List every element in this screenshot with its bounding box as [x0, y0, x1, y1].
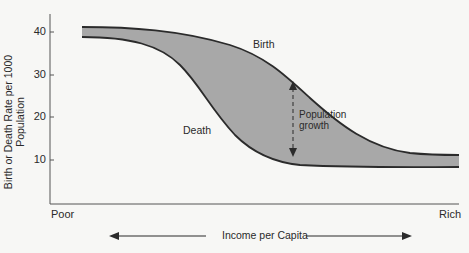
birth-label: Birth — [253, 38, 275, 50]
y-tick-label-30: 30 — [24, 68, 46, 80]
growth-label-line1: Population — [299, 109, 346, 120]
x-axis-label: Income per Capita — [222, 229, 308, 241]
x-label-poor: Poor — [51, 208, 74, 220]
arrow-left-icon — [109, 232, 119, 240]
x-label-rich: Rich — [439, 208, 461, 220]
y-tick-label-40: 40 — [24, 25, 46, 37]
arrow-right-icon — [402, 232, 412, 240]
population-growth-label: Population growth — [299, 109, 346, 131]
y-tick-label-20: 20 — [24, 110, 46, 122]
growth-label-line2: growth — [299, 120, 346, 131]
y-axis-label: Birth or Death Rate per 1000 Population — [2, 32, 26, 212]
y-tick-label-10: 10 — [24, 153, 46, 165]
death-label: Death — [183, 124, 211, 136]
